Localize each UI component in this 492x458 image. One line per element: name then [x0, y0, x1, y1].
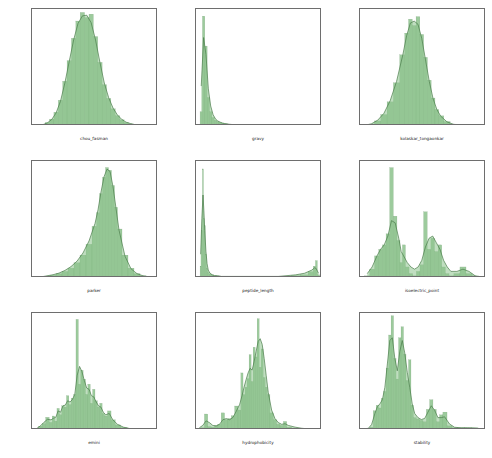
- y-tick-mark: [195, 330, 196, 331]
- y-tick-mark: [195, 11, 196, 12]
- histogram-panel-chou_fasman: 0.00.51.01.52.02.53.00.60.81.01.21.41.6c…: [0, 0, 164, 152]
- y-tick-mark: [31, 39, 32, 40]
- y-tick-mark: [359, 388, 360, 389]
- y-tick-mark: [359, 361, 360, 362]
- kde-area: [39, 15, 153, 125]
- histogram-canvas-chou_fasman: [32, 9, 157, 125]
- histogram-canvas-parker: [32, 161, 157, 277]
- y-tick-mark: [31, 108, 32, 109]
- histogram-panel-parker: 0.000.050.100.150.20-10.0-7.5-5.0-2.50.0…: [0, 152, 164, 304]
- y-tick-mark: [195, 183, 196, 184]
- x-axis-label-parker: parker: [31, 289, 157, 293]
- kde-area: [37, 366, 143, 429]
- histogram-panel-isoelectric_point: 0.00.10.20.30.40.54681012isoelectric_poi…: [328, 152, 492, 304]
- y-tick-mark: [195, 97, 196, 98]
- histogram-panel-peptide_length: 0.000.020.040.060.080.100.120.1405010015…: [164, 152, 328, 304]
- kde-curve: [201, 38, 319, 125]
- plot-area-isoelectric_point: 0.00.10.20.30.40.54681012: [359, 160, 485, 277]
- histogram-bars: [200, 169, 320, 277]
- histogram-panel-gravy: 0.00.10.20.30.40.50.60.70.8010203040grav…: [164, 0, 328, 152]
- y-tick-mark: [359, 49, 360, 50]
- x-axis-label-hydrophobicity: hydrophobicity: [195, 441, 321, 445]
- y-tick-mark: [359, 100, 360, 101]
- histogram-panel-emini: 0102030400.0000.0250.0500.0750.1000.1250…: [0, 304, 164, 456]
- y-tick-mark: [195, 246, 196, 247]
- histogram-panel-kolaskar_tongaonkar: 024680.80.91.01.11.21.3kolaskar_tongaonk…: [328, 0, 492, 152]
- y-tick-mark: [359, 211, 360, 212]
- histogram-canvas-hydrophobicity: [196, 313, 321, 429]
- y-tick-mark: [31, 379, 32, 380]
- kde-area: [201, 38, 319, 125]
- plot-area-parker: 0.000.050.100.150.20-10.0-7.5-5.0-2.50.0…: [31, 160, 157, 277]
- x-axis-label-stability: stability: [359, 441, 485, 445]
- y-tick-mark: [195, 68, 196, 69]
- y-tick-mark: [195, 83, 196, 84]
- y-tick-mark: [31, 22, 32, 23]
- kde-area: [199, 339, 317, 429]
- histogram-canvas-gravy: [196, 9, 321, 125]
- x-axis-label-isoelectric_point: isoelectric_point: [359, 289, 485, 293]
- plot-area-chou_fasman: 0.00.51.01.52.02.53.00.60.81.01.21.41.6: [31, 8, 157, 125]
- y-tick-mark: [31, 196, 32, 197]
- x-axis-label-emini: emini: [31, 441, 157, 445]
- x-axis-label-chou_fasman: chou_fasman: [31, 137, 157, 141]
- y-tick-mark: [195, 387, 196, 388]
- histogram-canvas-peptide_length: [196, 161, 321, 277]
- y-tick-mark: [359, 24, 360, 25]
- histogram-canvas-isoelectric_point: [360, 161, 485, 277]
- y-tick-mark: [359, 347, 360, 348]
- y-tick-mark: [359, 319, 360, 320]
- y-tick-mark: [359, 333, 360, 334]
- kde-area: [201, 195, 319, 277]
- plot-area-hydrophobicity: 0.000.250.500.751.001.251.501.752.00-2.0…: [195, 312, 321, 429]
- y-tick-mark: [31, 169, 32, 170]
- histogram-panel-stability: 0.0000.0050.0100.0150.0200.0250.0300.035…: [328, 304, 492, 456]
- y-tick-mark: [31, 91, 32, 92]
- plot-area-stability: 0.0000.0050.0100.0150.0200.0250.0300.035…: [359, 312, 485, 429]
- y-tick-mark: [195, 262, 196, 263]
- y-tick-mark: [195, 111, 196, 112]
- y-tick-mark: [359, 402, 360, 403]
- y-tick-mark: [359, 75, 360, 76]
- y-tick-mark: [195, 54, 196, 55]
- kde-area: [365, 338, 481, 429]
- x-axis-label-peptide_length: peptide_length: [195, 289, 321, 293]
- plot-area-emini: 0102030400.0000.0250.0500.0750.1000.1250…: [31, 312, 157, 429]
- y-tick-mark: [359, 374, 360, 375]
- histogram-canvas-stability: [360, 313, 485, 429]
- y-tick-mark: [195, 372, 196, 373]
- histogram-panel-hydrophobicity: 0.000.250.500.751.001.251.501.752.00-2.0…: [164, 304, 328, 456]
- y-tick-mark: [31, 74, 32, 75]
- x-axis-label-kolaskar_tongaonkar: kolaskar_tongaonkar: [359, 137, 485, 141]
- y-tick-mark: [31, 223, 32, 224]
- y-tick-mark: [195, 344, 196, 345]
- y-tick-mark: [31, 328, 32, 329]
- y-tick-mark: [195, 26, 196, 27]
- plot-area-gravy: 0.00.10.20.30.40.50.60.70.8010203040: [195, 8, 321, 125]
- y-tick-mark: [359, 233, 360, 234]
- y-tick-mark: [195, 230, 196, 231]
- histogram-bars: [200, 16, 321, 125]
- y-tick-mark: [195, 401, 196, 402]
- y-tick-mark: [195, 40, 196, 41]
- y-tick-mark: [195, 214, 196, 215]
- y-tick-mark: [359, 416, 360, 417]
- y-tick-mark: [195, 167, 196, 168]
- y-tick-mark: [31, 353, 32, 354]
- y-tick-mark: [31, 404, 32, 405]
- kde-curve: [201, 195, 319, 276]
- y-tick-mark: [31, 250, 32, 251]
- histogram-canvas-emini: [32, 313, 157, 429]
- y-tick-mark: [359, 167, 360, 168]
- y-tick-mark: [195, 415, 196, 416]
- y-tick-mark: [195, 315, 196, 316]
- y-tick-mark: [359, 255, 360, 256]
- histogram-grid-figure: 0.00.51.01.52.02.53.00.60.81.01.21.41.6c…: [0, 0, 492, 458]
- y-tick-mark: [195, 358, 196, 359]
- plot-area-peptide_length: 0.000.020.040.060.080.100.120.1405010015…: [195, 160, 321, 277]
- plot-area-kolaskar_tongaonkar: 024680.80.91.01.11.21.3: [359, 8, 485, 125]
- y-tick-mark: [359, 189, 360, 190]
- y-tick-mark: [195, 198, 196, 199]
- histogram-canvas-kolaskar_tongaonkar: [360, 9, 485, 125]
- x-axis-label-gravy: gravy: [195, 137, 321, 141]
